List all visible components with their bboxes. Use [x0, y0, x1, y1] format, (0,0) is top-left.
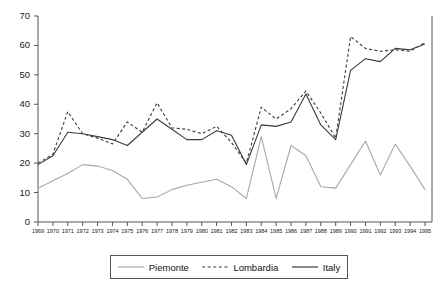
x-tick-label: 1985 [268, 228, 284, 235]
x-tick-label: 1975 [119, 228, 135, 235]
x-tick-label: 1982 [224, 228, 240, 235]
legend-swatch-piemonte [118, 263, 144, 271]
y-tick-label: 50 [8, 70, 30, 80]
legend-item-italy[interactable]: Italy [292, 262, 340, 273]
x-tick-label: 1971 [60, 228, 76, 235]
x-tick-label: 1990 [343, 228, 359, 235]
x-tick-label: 1987 [298, 228, 314, 235]
x-tick-label: 1992 [372, 228, 388, 235]
data-series-group [38, 37, 425, 199]
y-tick-label: 70 [8, 11, 30, 21]
legend-label-piemonte: Piemonte [149, 262, 189, 273]
x-tick-label: 1983 [238, 228, 254, 235]
x-tick-marks [38, 222, 425, 226]
x-tick-label: 1976 [134, 228, 150, 235]
x-tick-label: 1970 [45, 228, 61, 235]
x-tick-label: 1993 [387, 228, 403, 235]
legend-label-italy: Italy [323, 262, 340, 273]
x-tick-label: 1988 [313, 228, 329, 235]
x-tick-label: 1989 [328, 228, 344, 235]
legend-item-lombardia[interactable]: Lombardia [202, 262, 278, 273]
series-line-piemonte [38, 137, 425, 199]
x-tick-label: 1986 [283, 228, 299, 235]
x-tick-label: 1974 [104, 228, 120, 235]
x-tick-label: 1980 [194, 228, 210, 235]
legend-swatch-lombardia [202, 263, 228, 271]
x-tick-label: 1981 [209, 228, 225, 235]
x-tick-label: 1994 [402, 228, 418, 235]
x-tick-label: 1979 [179, 228, 195, 235]
y-tick-marks [34, 16, 38, 222]
x-tick-label: 1969 [30, 228, 46, 235]
plot-area [0, 0, 447, 294]
y-tick-label: 60 [8, 40, 30, 50]
x-tick-label: 1978 [164, 228, 180, 235]
legend-swatch-italy [292, 263, 318, 271]
series-line-italy [38, 44, 425, 165]
x-tick-label: 1972 [75, 228, 91, 235]
x-tick-label: 1973 [90, 228, 106, 235]
y-tick-label: 10 [8, 188, 30, 198]
y-tick-label: 20 [8, 158, 30, 168]
chart-legend: Piemonte Lombardia Italy [110, 255, 348, 279]
x-tick-label: 1991 [357, 228, 373, 235]
x-tick-label: 1984 [253, 228, 269, 235]
axes [38, 16, 432, 222]
legend-label-lombardia: Lombardia [233, 262, 278, 273]
y-tick-label: 40 [8, 99, 30, 109]
x-tick-label: 1995 [417, 228, 433, 235]
legend-item-piemonte[interactable]: Piemonte [118, 262, 189, 273]
line-chart: 010203040506070 196919701971197219731974… [0, 0, 447, 294]
y-tick-label: 30 [8, 129, 30, 139]
x-tick-label: 1977 [149, 228, 165, 235]
y-tick-label: 0 [8, 217, 30, 227]
